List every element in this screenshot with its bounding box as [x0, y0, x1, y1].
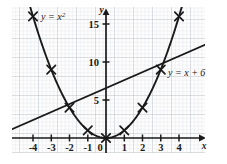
- y-tick-label: 10: [89, 57, 100, 68]
- parabola-equation-text: y = x: [40, 11, 62, 22]
- x-axis-label: x: [201, 141, 207, 151]
- x-tick-label: -3: [47, 142, 56, 153]
- y-tick-label: 15: [89, 19, 100, 30]
- graph-figure: y x 0 -4 -3 -2 -1 1 2 3 4 5 10 15 y = x2…: [0, 0, 227, 164]
- y-axis-label: y: [98, 5, 104, 15]
- x-tick-label: 1: [122, 142, 127, 153]
- y-tick-label: 5: [94, 95, 99, 106]
- line-equation-label: y = x + 6: [167, 67, 205, 78]
- x-tick-label: 4: [176, 142, 182, 153]
- x-tick-label: -1: [83, 142, 92, 153]
- x-tick-label: -4: [29, 142, 38, 153]
- parabola-equation-exponent: 2: [62, 11, 66, 19]
- origin-tick-label: 0: [97, 142, 102, 153]
- x-tick-label: 3: [158, 142, 163, 153]
- x-tick-label: -2: [65, 142, 74, 153]
- x-tick-label: 2: [140, 142, 145, 153]
- coordinate-plane-chart: y x 0 -4 -3 -2 -1 1 2 3 4 5 10 15 y = x2…: [0, 0, 227, 164]
